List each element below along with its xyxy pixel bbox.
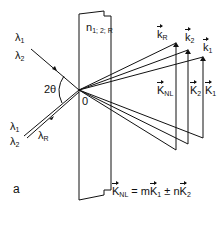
beam-k2 <box>79 50 188 90</box>
angle-label: 2θ <box>44 84 56 95</box>
wavevector-k2: k2 <box>185 32 194 44</box>
wavevector-kR: kR <box>157 29 168 41</box>
reflected-lambda2: λ2 <box>10 136 19 148</box>
beam-lower-2 <box>79 90 188 144</box>
angle-arc <box>59 76 64 103</box>
panel-label: a <box>13 183 20 195</box>
medium-label: n1; 2; R <box>86 22 113 34</box>
incident-lambda2: λ2 <box>15 50 24 62</box>
grating-vector-K2: K2 <box>190 85 201 97</box>
reflected-lambda1: λ1 <box>10 121 19 133</box>
beam-k1 <box>79 57 203 90</box>
incident-lambda1: λ1 <box>15 32 24 44</box>
beam-lower-NL <box>79 90 176 150</box>
reflected-lambdaR: λR <box>38 130 49 142</box>
grating-vector-KNL: KNL <box>157 85 173 97</box>
origin-label: 0 <box>82 96 88 107</box>
wavevector-k1: k1 <box>203 42 212 54</box>
beam-lower-1 <box>79 90 203 138</box>
grating-vector-K1: K1 <box>205 85 216 97</box>
reflected-beam <box>24 90 79 136</box>
equation: KNL = mK1 ± nK2 <box>112 186 191 198</box>
